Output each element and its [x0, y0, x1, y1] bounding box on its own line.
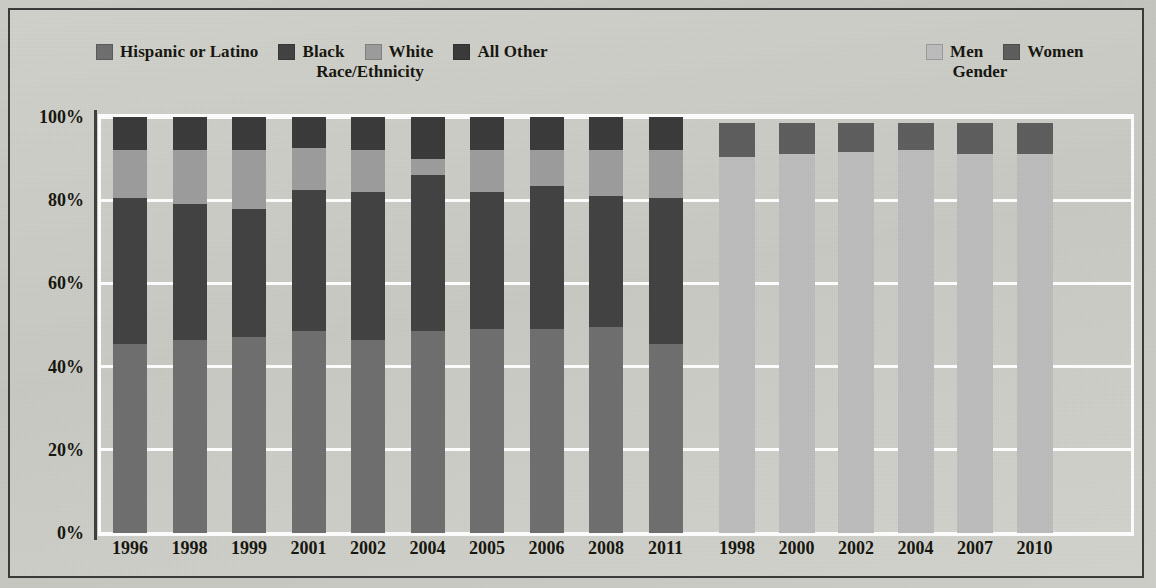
bar-segment-hispanic-or-latino [589, 327, 623, 533]
legend-item-white[interactable]: White [365, 42, 434, 62]
bar-segment-hispanic-or-latino [470, 329, 504, 533]
group-title-race-ethnicity: Race/Ethnicity [190, 62, 550, 82]
bar-segment-white [173, 150, 207, 204]
bar-segment-black [292, 190, 326, 331]
bar-race-ethnicity-2011[interactable] [649, 117, 683, 533]
bar-segment-black [351, 192, 385, 340]
x-axis-tick-label: 1998 [172, 538, 208, 559]
x-axis-tick-label: 1999 [231, 538, 267, 559]
bar-race-ethnicity-1999[interactable] [232, 117, 266, 533]
y-axis-line [94, 110, 97, 540]
bar-segment-black [232, 209, 266, 338]
y-axis-tick-label: 20% [48, 439, 84, 460]
legend-item-hispanic-or-latino[interactable]: Hispanic or Latino [96, 42, 258, 62]
x-axis-tick-label: 2000 [779, 538, 815, 559]
x-axis-tick-label: 2005 [469, 538, 505, 559]
x-axis-tick-label: 2011 [648, 538, 683, 559]
bar-segment-all-other [470, 117, 504, 150]
bar-segment-all-other [292, 117, 326, 148]
bar-segment-hispanic-or-latino [649, 344, 683, 533]
bar-segment-hispanic-or-latino [113, 344, 147, 533]
bar-segment-all-other [411, 117, 445, 159]
bar-gender-2000[interactable] [779, 123, 815, 533]
bar-segment-black [173, 204, 207, 339]
x-axis-tick-label: 2004 [410, 538, 446, 559]
y-axis-tick-label: 40% [48, 356, 84, 377]
bar-segment-women [957, 123, 993, 154]
bar-segment-all-other [649, 117, 683, 150]
bar-segment-men [898, 150, 934, 533]
x-axis-tick-label: 2008 [588, 538, 624, 559]
bar-race-ethnicity-2002[interactable] [351, 117, 385, 533]
bar-segment-white [411, 159, 445, 176]
legend-item-label: White [389, 42, 434, 62]
plot-inner [101, 117, 1131, 533]
bar-race-ethnicity-2005[interactable] [470, 117, 504, 533]
bar-race-ethnicity-1998[interactable] [173, 117, 207, 533]
group-title-gender: Gender [830, 62, 1130, 82]
bar-segment-men [838, 152, 874, 533]
bar-segment-black [470, 192, 504, 329]
legend-item-men[interactable]: Men [926, 42, 983, 62]
x-axis-tick-label: 1996 [112, 538, 148, 559]
y-axis-tick-label: 0% [57, 523, 84, 544]
x-axis-tick-label: 2010 [1017, 538, 1053, 559]
legend-swatch-icon [453, 44, 470, 60]
legend-item-women[interactable]: Women [1003, 42, 1083, 62]
bar-race-ethnicity-2001[interactable] [292, 117, 326, 533]
bar-gender-1998[interactable] [719, 123, 755, 533]
x-axis-tick-label: 2006 [529, 538, 565, 559]
plot-area [98, 114, 1134, 536]
bar-race-ethnicity-2004[interactable] [411, 117, 445, 533]
bar-segment-black [530, 186, 564, 330]
bar-gender-2002[interactable] [838, 123, 874, 533]
bar-segment-all-other [232, 117, 266, 150]
bar-segment-men [779, 154, 815, 533]
legend-swatch-icon [365, 44, 382, 60]
x-axis-tick-label: 1998 [719, 538, 755, 559]
bar-segment-hispanic-or-latino [292, 331, 326, 533]
bar-segment-hispanic-or-latino [411, 331, 445, 533]
x-axis-tick-label: 2007 [957, 538, 993, 559]
bar-segment-all-other [173, 117, 207, 150]
x-axis-tick-label: 2004 [898, 538, 934, 559]
legend-swatch-icon [1003, 44, 1020, 60]
x-axis-tick-label: 2002 [350, 538, 386, 559]
bar-segment-black [589, 196, 623, 327]
bar-segment-women [838, 123, 874, 152]
bar-segment-white [470, 150, 504, 192]
bar-race-ethnicity-2008[interactable] [589, 117, 623, 533]
bar-segment-black [411, 175, 445, 331]
y-axis-tick-label: 100% [39, 107, 84, 128]
bar-segment-all-other [589, 117, 623, 150]
bar-gender-2004[interactable] [898, 123, 934, 533]
bar-segment-all-other [113, 117, 147, 150]
bar-segment-white [351, 150, 385, 192]
bar-segment-white [589, 150, 623, 196]
bar-race-ethnicity-1996[interactable] [113, 117, 147, 533]
bar-segment-women [1017, 123, 1053, 154]
legend-item-black[interactable]: Black [278, 42, 344, 62]
legend-item-all-other[interactable]: All Other [453, 42, 547, 62]
bar-segment-white [530, 150, 564, 185]
x-axis-tick-label: 2001 [291, 538, 327, 559]
bar-segment-men [719, 157, 755, 533]
legend-swatch-icon [96, 44, 113, 60]
bar-segment-women [898, 123, 934, 150]
bar-race-ethnicity-2006[interactable] [530, 117, 564, 533]
bar-segment-hispanic-or-latino [351, 340, 385, 533]
bar-segment-black [113, 198, 147, 344]
bar-segment-women [779, 123, 815, 154]
bar-segment-all-other [351, 117, 385, 150]
figure-frame: Hispanic or LatinoBlackWhiteAll Other Me… [8, 8, 1144, 578]
bar-segment-white [649, 150, 683, 198]
bar-segment-men [1017, 154, 1053, 533]
bar-segment-men [957, 154, 993, 533]
bar-gender-2007[interactable] [957, 123, 993, 533]
legend-race-ethnicity: Hispanic or LatinoBlackWhiteAll Other [96, 40, 548, 64]
bar-gender-2010[interactable] [1017, 123, 1053, 533]
x-axis-tick-label: 2002 [838, 538, 874, 559]
bar-segment-hispanic-or-latino [173, 340, 207, 533]
y-axis-tick-label: 80% [48, 190, 84, 211]
legend-item-label: Women [1027, 42, 1083, 62]
